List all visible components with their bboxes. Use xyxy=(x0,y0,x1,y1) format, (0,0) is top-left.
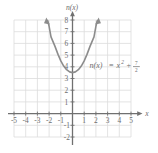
equation-base: x xyxy=(116,61,121,70)
y-axis-label: n(x) xyxy=(66,3,79,12)
x-tick-label--3: -3 xyxy=(34,116,40,125)
x-tick-label-2: 2 xyxy=(94,116,98,125)
y-tick-label-2: 2 xyxy=(65,86,69,95)
x-tick-label--2: -2 xyxy=(46,116,52,125)
equation-plus: + xyxy=(126,61,131,70)
x-tick-label-5: 5 xyxy=(129,116,133,125)
y-tick-label-6: 6 xyxy=(65,39,69,48)
y-tick-label-1: 1 xyxy=(65,98,69,107)
y-tick-label--1: -1 xyxy=(64,121,70,130)
coordinate-plane-svg: -5 -4 -3 -2 -1 1 2 3 4 5 8 7 6 5 4 3 2 1… xyxy=(0,0,158,153)
y-tick-label-7: 7 xyxy=(65,27,69,36)
y-tick-label-8: 8 xyxy=(65,16,69,25)
x-tick-label-3: 3 xyxy=(106,116,110,125)
x-tick-label-4: 4 xyxy=(117,116,121,125)
equation-exponent: 2 xyxy=(121,59,124,65)
y-tick-label-5: 5 xyxy=(65,51,69,60)
x-tick-label--4: -4 xyxy=(23,116,29,125)
y-tick-label--2: -2 xyxy=(64,133,70,142)
y-tick-label-3: 3 xyxy=(65,74,69,83)
graph-figure: -5 -4 -3 -2 -1 1 2 3 4 5 8 7 6 5 4 3 2 1… xyxy=(0,0,158,153)
equation-numerator: 7 xyxy=(135,60,138,66)
equation-function: n(x) xyxy=(90,61,103,70)
equation-denominator: 2 xyxy=(135,67,138,73)
x-tick-label--5: -5 xyxy=(11,116,17,125)
equation-equals: = xyxy=(109,61,114,70)
x-axis-label: x xyxy=(144,109,149,118)
x-tick-label-1: 1 xyxy=(82,116,86,125)
equation-annotation: n(x) = x 2 + 7 2 xyxy=(90,59,140,73)
